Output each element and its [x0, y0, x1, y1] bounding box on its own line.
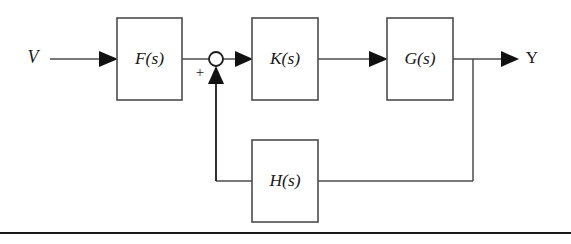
block-diagram-figure: F(s) K(s) G(s) H(s) + V Y	[0, 0, 571, 244]
input-signal-label: V	[28, 47, 41, 67]
block-F-label: F(s)	[134, 48, 164, 68]
arrowhead-into-G	[369, 51, 388, 67]
block-G-label: G(s)	[404, 48, 435, 68]
arrowhead-into-sum	[208, 66, 224, 84]
block-G: G(s)	[387, 18, 453, 100]
block-K-label: K(s)	[269, 48, 300, 68]
diagram-canvas: F(s) K(s) G(s) H(s) + V Y	[0, 0, 571, 244]
summing-junction-plus-sign: +	[196, 64, 204, 80]
arrowhead-into-F	[99, 51, 118, 67]
arrowhead-to-output	[501, 51, 519, 67]
block-F: F(s)	[117, 18, 182, 100]
arrowhead-into-K	[235, 51, 253, 67]
block-H-label: H(s)	[268, 170, 300, 190]
block-H: H(s)	[252, 140, 318, 222]
block-K: K(s)	[252, 18, 318, 100]
output-signal-label: Y	[526, 48, 538, 67]
summing-junction-circle	[209, 52, 223, 66]
